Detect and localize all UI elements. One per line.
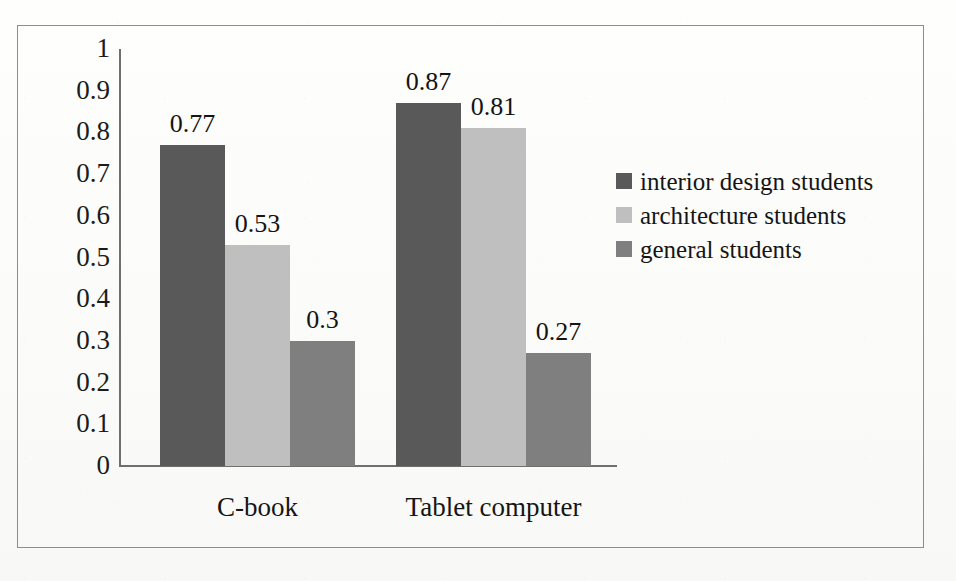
legend-item[interactable]: architecture students [616, 198, 916, 232]
bar[interactable] [160, 145, 225, 466]
y-axis-tick-label: 0.6 [24, 202, 110, 229]
bars-layer [119, 26, 617, 466]
bar-value-label: 0.81 [451, 94, 536, 120]
y-axis-tick-label: 0.1 [24, 410, 110, 437]
y-axis-tick-label: 1 [24, 35, 110, 62]
legend-item[interactable]: interior design students [616, 164, 916, 198]
y-axis-tick-label: 0.9 [24, 77, 110, 104]
y-axis-tick-label: 0 [24, 452, 110, 479]
legend-item[interactable]: general students [616, 232, 916, 266]
legend-swatch-icon [616, 207, 632, 223]
bar-value-label: 0.27 [516, 319, 601, 345]
bar-value-label: 0.53 [215, 211, 300, 237]
bar-value-label: 0.77 [150, 111, 235, 137]
y-axis-tick-label: 0.5 [24, 244, 110, 271]
chart-legend: interior design studentsarchitecture stu… [616, 164, 916, 266]
bar[interactable] [396, 103, 461, 466]
y-axis-tick-labels: 10.90.80.70.60.50.40.30.20.10 [18, 26, 110, 549]
legend-label: general students [640, 236, 802, 263]
chart-frame: 10.90.80.70.60.50.40.30.20.10 C-bookTabl… [17, 25, 924, 548]
bar[interactable] [290, 341, 355, 466]
bar[interactable] [225, 245, 290, 466]
legend-label: interior design students [640, 168, 873, 195]
legend-label: architecture students [640, 202, 846, 229]
bar-value-label: 0.87 [386, 69, 471, 95]
bar[interactable] [461, 128, 526, 466]
y-axis-tick-label: 0.4 [24, 285, 110, 312]
y-axis-tick-label: 0.2 [24, 369, 110, 396]
legend-swatch-icon [616, 173, 632, 189]
x-axis-category-label: Tablet computer [351, 492, 636, 522]
plot-area: 10.90.80.70.60.50.40.30.20.10 C-bookTabl… [18, 26, 925, 549]
legend-swatch-icon [616, 241, 632, 257]
bar[interactable] [526, 353, 591, 466]
y-axis-tick-label: 0.7 [24, 160, 110, 187]
bar-value-label: 0.3 [280, 307, 365, 333]
y-axis-tick-label: 0.3 [24, 327, 110, 354]
y-axis-tick-label: 0.8 [24, 118, 110, 145]
chart-page: 10.90.80.70.60.50.40.30.20.10 C-bookTabl… [0, 0, 956, 581]
